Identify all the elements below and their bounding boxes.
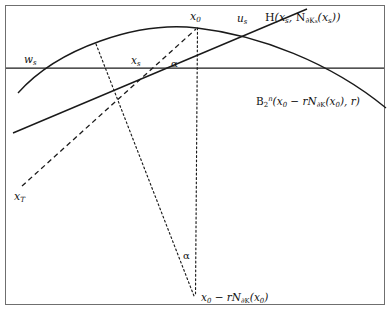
label-point-us: us: [237, 13, 247, 24]
figure-frame: [6, 6, 385, 305]
label-hyperplane: H(xs, N∂Ks(xs)): [265, 12, 340, 23]
figure-container: H(xs, N∂Ks(xs)) B2n(x0 − rN∂K(x0), r) x0…: [0, 0, 390, 317]
label-point-ws: ws: [24, 54, 37, 65]
label-angle-alpha-bottom: α: [183, 251, 190, 261]
dashed-line-xt-x0: [22, 29, 196, 186]
label-point-xs: xs: [131, 55, 140, 66]
label-point-xt: xT: [14, 191, 25, 202]
label-ball: B2n(x0 − rN∂K(x0), r): [256, 96, 360, 107]
label-angle-alpha-top: α: [171, 59, 178, 69]
label-point-center: x0 − rN∂K(x0): [201, 292, 268, 303]
label-point-x0: x0: [190, 11, 201, 22]
diagram-canvas: [0, 0, 390, 317]
dotted-normal-line: [96, 44, 194, 296]
